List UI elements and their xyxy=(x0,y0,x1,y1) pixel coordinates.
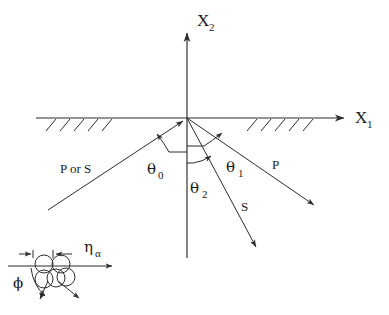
theta0-arc xyxy=(157,134,169,152)
x2-axis-label-base: X xyxy=(197,11,209,30)
x2-axis-label-subscript: 2 xyxy=(209,21,215,33)
theta1-subscript: 1 xyxy=(238,167,244,179)
surface-hatching-right xyxy=(247,119,313,131)
theta0-subscript: 0 xyxy=(158,169,164,181)
ray-label-reflected-s: S xyxy=(241,199,248,214)
x1-axis-label-subscript: 1 xyxy=(367,118,373,130)
eta-subscript: α xyxy=(95,247,101,259)
angle-arc-theta1 xyxy=(187,133,222,146)
surface-hatching-left xyxy=(46,119,112,131)
x1-axis-label: X 1 xyxy=(355,108,373,130)
angle-label-theta1: θ 1 xyxy=(226,158,244,179)
inset-eta-label: η α xyxy=(84,238,101,259)
theta2-symbol: θ xyxy=(190,179,199,197)
theta1-arc xyxy=(204,133,222,146)
ray-label-reflected-p: P xyxy=(272,157,279,172)
inset-slip-arrow-1 xyxy=(40,281,48,299)
theta0-symbol: θ xyxy=(147,160,156,178)
phi-symbol: ϕ xyxy=(13,274,23,292)
eta-symbol: η xyxy=(84,238,93,256)
angle-arc-theta0 xyxy=(157,134,187,152)
x2-axis-label: X 2 xyxy=(197,11,215,33)
x1-axis-label-base: X xyxy=(355,108,367,127)
inset-slip-arrow-2 xyxy=(58,281,79,298)
theta2-subscript: 2 xyxy=(202,188,208,200)
figure-canvas: X 2 X 1 P or S P S θ 0 θ 1 θ 2 xyxy=(0,0,389,315)
angle-label-theta0: θ 0 xyxy=(147,160,164,181)
inset-circle-lower-3 xyxy=(57,268,75,286)
ray-label-incident: P or S xyxy=(60,161,91,176)
diagram-svg: X 2 X 1 P or S P S θ 0 θ 1 θ 2 xyxy=(0,0,389,315)
angle-label-theta2: θ 2 xyxy=(190,179,208,200)
theta1-symbol: θ xyxy=(226,158,235,176)
